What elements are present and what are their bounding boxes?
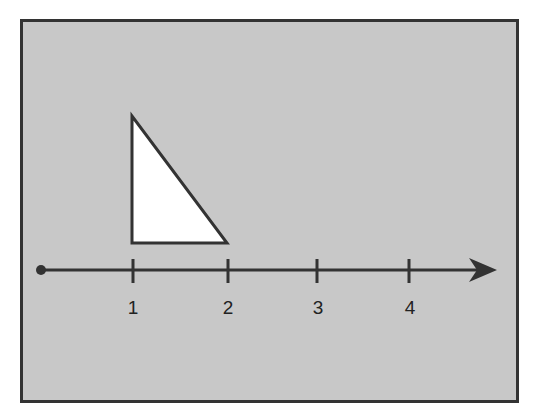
tick-label-4: 4 <box>405 297 416 318</box>
tick-label-2: 2 <box>223 297 234 318</box>
number-line-diagram: 1 2 3 4 <box>0 0 533 413</box>
start-dot-icon <box>36 265 46 275</box>
diagram-panel <box>22 21 518 402</box>
tick-label-3: 3 <box>313 297 324 318</box>
tick-label-1: 1 <box>128 297 139 318</box>
